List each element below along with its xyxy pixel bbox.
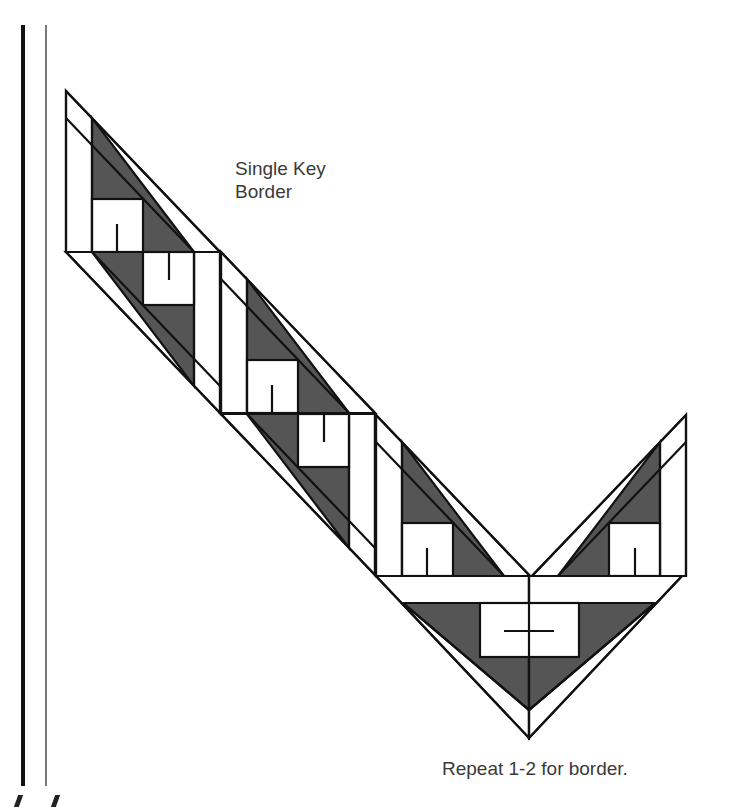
unit-2-b (221, 414, 375, 575)
unit-2-a (221, 252, 375, 413)
single-key-border-diagram (0, 0, 729, 807)
unit-1-a (66, 91, 220, 252)
unit-right-a (532, 415, 686, 576)
corner-unit (376, 576, 682, 738)
diagram-title: Single Key Border (235, 157, 326, 203)
repeat-instruction: Repeat 1-2 for border. (442, 757, 628, 780)
unit-3-a (376, 415, 530, 576)
title-line-2: Border (235, 180, 326, 203)
unit-1-b (66, 252, 220, 413)
title-line-1: Single Key (235, 157, 326, 180)
